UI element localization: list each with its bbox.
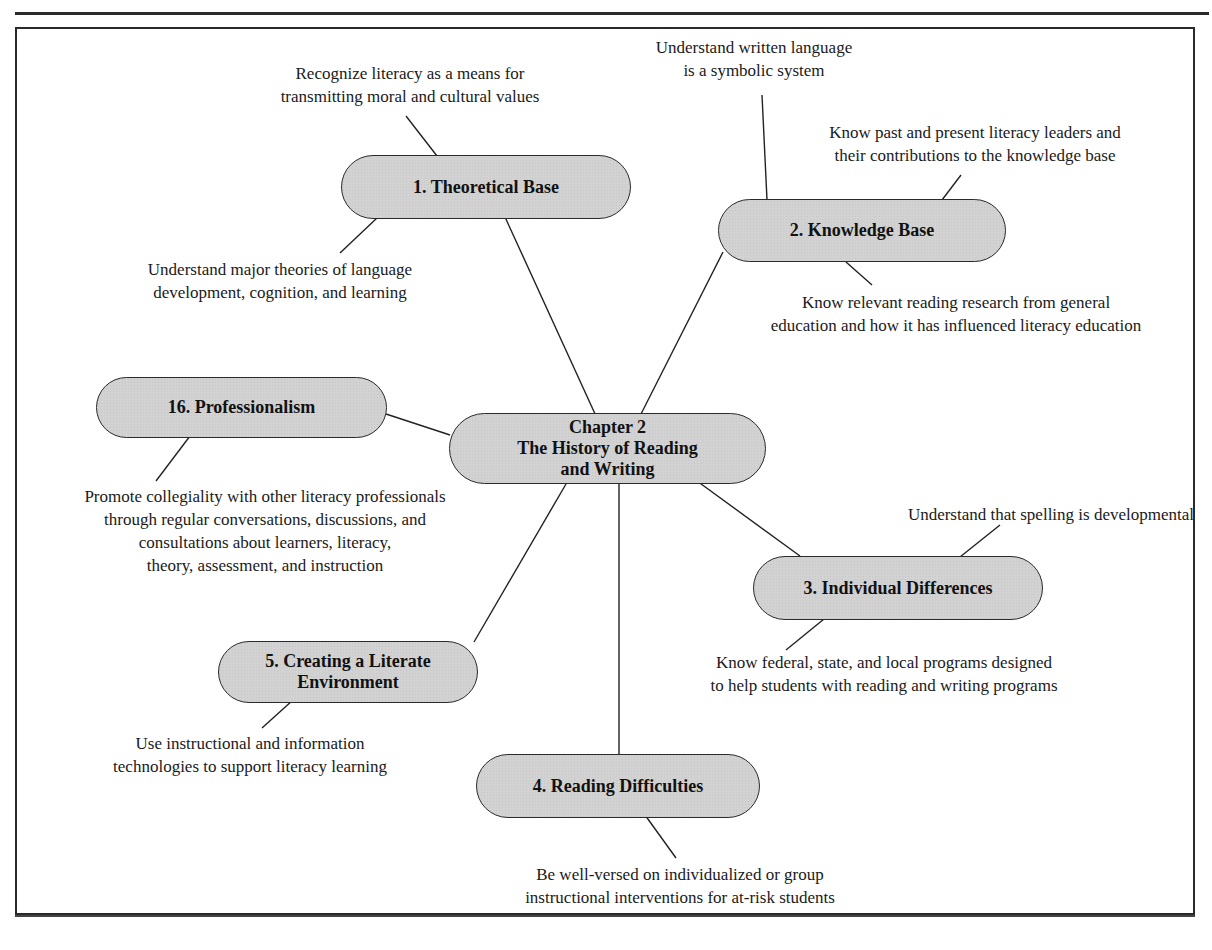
leaf-theoretical-1: Recognize literacy as a means for transm… [150, 62, 670, 108]
branch-label: 3. Individual Differences [803, 578, 992, 599]
branch-node-knowledge-base[interactable]: 2. Knowledge Base [718, 199, 1006, 262]
leaf-knowledge-3: Know relevant reading research from gene… [706, 291, 1206, 337]
leaf-individual-2: Know federal, state, and local programs … [634, 651, 1134, 697]
leaf-literate-1: Use instructional and information techno… [50, 732, 450, 778]
leaf-knowledge-2: Know past and present literacy leaders a… [755, 121, 1195, 167]
branch-label: 1. Theoretical Base [413, 177, 559, 198]
leaf-knowledge-1-text: Understand written language is a symboli… [634, 36, 874, 82]
connector-center-theoretical [505, 217, 596, 416]
branch-label: 2. Knowledge Base [790, 220, 935, 241]
branch-label: 4. Reading Difficulties [533, 776, 704, 797]
branch-node-literate-environment[interactable]: 5. Creating a Literate Environment [218, 641, 478, 703]
connector-individual-leaf2 [786, 619, 824, 650]
connector-literate-leaf1 [262, 700, 293, 728]
connector-professionalism-leaf1 [156, 436, 190, 481]
connector-center-individual [697, 481, 800, 556]
leaf-professionalism-1: Promote collegiality with other literacy… [20, 485, 510, 577]
connector-reading-leaf1 [645, 815, 676, 858]
leaf-knowledge-1: Understand written language is a symboli… [600, 13, 954, 105]
center-node[interactable]: Chapter 2 The History of Reading and Wri… [449, 413, 766, 484]
connector-knowledge-leaf3 [846, 262, 872, 285]
connector-individual-leaf1 [960, 525, 1000, 557]
connector-theoretical-leaf1 [406, 116, 437, 156]
branch-label: 5. Creating a Literate Environment [265, 651, 431, 693]
branch-node-professionalism[interactable]: 16. Professionalism [96, 377, 387, 438]
leaf-theoretical-2: Understand major theories of language de… [80, 258, 480, 304]
leaf-reading-1: Be well-versed on individualized or grou… [430, 863, 930, 909]
branch-node-individual-differences[interactable]: 3. Individual Differences [753, 556, 1043, 620]
branch-node-reading-difficulties[interactable]: 4. Reading Difficulties [476, 754, 760, 818]
connector-knowledge-leaf2 [942, 175, 961, 200]
connector-center-professionalism [386, 414, 450, 435]
branch-label: 16. Professionalism [168, 397, 316, 418]
leaf-individual-1: Understand that spelling is developmenta… [800, 503, 1200, 526]
branch-node-theoretical-base[interactable]: 1. Theoretical Base [341, 155, 631, 219]
connector-theoretical-leaf2 [340, 218, 377, 253]
center-node-label: Chapter 2 The History of Reading and Wri… [517, 417, 698, 480]
